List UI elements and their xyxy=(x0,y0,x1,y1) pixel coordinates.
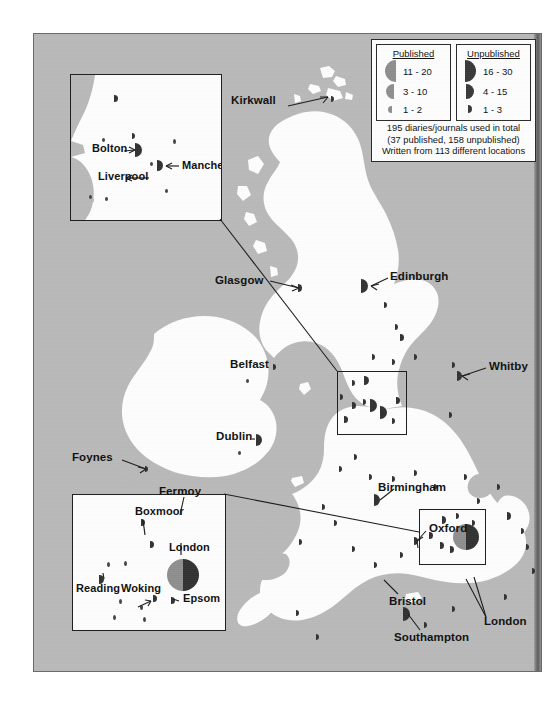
legend-range-label: 11 - 20 xyxy=(403,66,432,77)
legend-range-label: 1 - 3 xyxy=(483,104,502,115)
inset-label-manchester: Manchester xyxy=(182,160,222,171)
legend-unpublished-title: Unpublished xyxy=(459,48,528,59)
legend-range-label: 16 - 30 xyxy=(483,66,513,77)
marker-dot xyxy=(119,599,122,604)
marker-dot xyxy=(344,416,348,423)
marker-dot xyxy=(440,542,444,549)
source-box-london-region xyxy=(419,509,486,565)
marker-london-unpublished-half xyxy=(466,524,479,550)
marker-dot xyxy=(238,451,241,455)
legend-note-line-2: (37 published, 158 unpublished) xyxy=(376,135,531,147)
marker-dot xyxy=(456,513,459,519)
map-label-oxford: Oxford xyxy=(429,523,467,535)
london-inset: Boxmoor London Reading Woking Epsom xyxy=(72,494,226,631)
map-label-foynes: Foynes xyxy=(72,452,113,464)
legend-range-label: 3 - 10 xyxy=(403,86,427,97)
half-disc-left-icon xyxy=(379,106,401,113)
marker-dot xyxy=(370,399,377,412)
map-label-london: London xyxy=(484,616,527,628)
marker-dot xyxy=(173,139,176,144)
legend-item: 11 - 20 xyxy=(379,61,448,81)
legend-range-label: 4 - 15 xyxy=(483,86,507,97)
marker-dot xyxy=(392,418,395,424)
legend-item: 1 - 2 xyxy=(379,101,448,117)
marker-dot xyxy=(165,189,168,193)
legend-item: 4 - 15 xyxy=(459,81,528,101)
legend-item: 1 - 3 xyxy=(459,101,528,117)
manchester-inset: Bolton Liverpool Manchester xyxy=(70,74,222,221)
map-figure: Published 11 - 20 3 - 10 xyxy=(33,33,542,672)
legend-note-line-3: Written from 113 different locations xyxy=(376,146,531,158)
map-label-birmingham: Birmingham xyxy=(378,482,446,494)
map-label-dublin: Dublin xyxy=(216,431,252,443)
legend-item: 16 - 30 xyxy=(459,61,528,81)
legend-note-line-1: 195 diaries/journals used in total xyxy=(376,123,531,135)
inset-label-woking: Woking xyxy=(121,583,161,594)
half-disc-left-icon xyxy=(379,84,401,99)
half-disc-right-icon xyxy=(459,84,481,99)
inset-label-reading: Reading xyxy=(76,583,120,594)
source-box-manchester-region xyxy=(337,371,407,435)
marker-dot xyxy=(450,546,454,553)
map-label-southampton: Southampton xyxy=(394,632,469,644)
marker-dot xyxy=(150,162,153,166)
half-disc-right-icon xyxy=(459,105,481,113)
legend-unpublished: Unpublished 16 - 30 4 - 15 xyxy=(456,44,531,121)
marker-dot xyxy=(396,397,400,404)
marker-dot xyxy=(105,197,108,201)
marker-dot xyxy=(113,615,116,620)
marker-dot xyxy=(107,562,110,567)
legend-summary-note: 195 diaries/journals used in total (37 p… xyxy=(376,121,531,158)
marker-dot xyxy=(143,617,146,622)
marker-dot xyxy=(246,379,249,383)
inset-label-london: London xyxy=(169,542,210,553)
map-label-fermoy: Fermoy xyxy=(159,486,201,498)
legend: Published 11 - 20 3 - 10 xyxy=(371,39,536,162)
inset-label-bolton: Bolton xyxy=(92,143,127,154)
inset-label-epsom: Epsom xyxy=(183,593,220,604)
marker-dot xyxy=(380,406,387,419)
legend-published: Published 11 - 20 3 - 10 xyxy=(376,44,451,121)
marker-woking xyxy=(140,605,143,610)
map-label-whitby: Whitby xyxy=(489,361,528,373)
marker-dot xyxy=(352,402,356,409)
legend-item: 3 - 10 xyxy=(379,81,448,101)
marker-dot xyxy=(89,195,92,199)
marker-dot xyxy=(124,561,127,566)
inset-label-liverpool: Liverpool xyxy=(98,171,148,182)
map-label-edinburgh: Edinburgh xyxy=(390,271,448,283)
inset-label-boxmoor: Boxmoor xyxy=(135,506,184,517)
map-label-glasgow: Glasgow xyxy=(215,275,264,287)
half-disc-left-icon xyxy=(379,60,401,82)
legend-published-title: Published xyxy=(379,48,448,59)
legend-range-label: 1 - 2 xyxy=(403,104,422,115)
map-label-bristol: Bristol xyxy=(389,596,426,608)
map-label-kirkwall: Kirkwall xyxy=(231,95,276,107)
marker-dot xyxy=(364,376,369,385)
half-disc-right-icon xyxy=(459,60,481,82)
map-label-belfast: Belfast xyxy=(230,359,269,371)
